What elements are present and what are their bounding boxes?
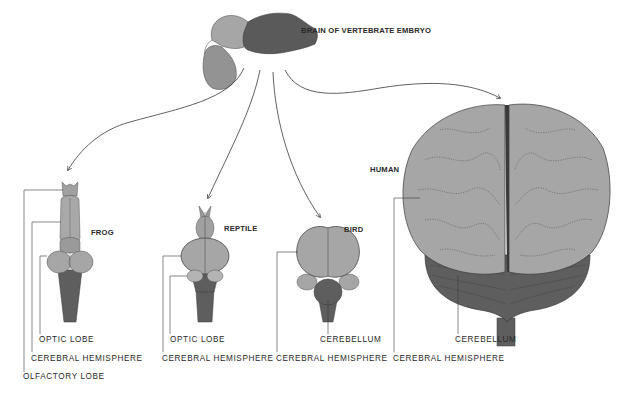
frog-label-olfactory-lobe: OLFACTORY LOBE [23,373,105,381]
frog-label-optic-lobe: OPTIC LOBE [39,336,94,344]
illustration [0,0,638,394]
embryo-brain-icon [203,13,317,89]
human-label-cerebral-hemisphere: CEREBRAL HEMISPHERE [393,355,505,363]
human-brain-icon [403,104,610,346]
specimen-name-bird: BIRD [344,226,363,234]
reptile-label-cerebral-hemisphere: CEREBRAL HEMISPHERE [162,355,274,363]
reptile-brain-icon [181,206,229,322]
diagram-title: BRAIN OF VERTEBRATE EMBRYO [301,27,431,35]
human-label-cerebellum: CEREBELLUM [455,336,517,344]
frog-label-cerebral-hemisphere: CEREBRAL HEMISPHERE [31,355,143,363]
specimen-name-frog: FROG [91,229,114,237]
specimen-name-reptile: REPTILE [224,225,257,233]
diagram-canvas: BRAIN OF VERTEBRATE EMBRYO FROG REPTILE … [0,0,638,394]
bird-label-cerebral-hemisphere: CEREBRAL HEMISPHERE [276,355,388,363]
specimen-name-human: HUMAN [370,166,399,174]
reptile-label-optic-lobe: OPTIC LOBE [170,336,225,344]
bird-label-cerebellum: CEREBELLUM [320,336,382,344]
leader-lines [24,190,458,372]
frog-brain-icon [47,182,93,322]
